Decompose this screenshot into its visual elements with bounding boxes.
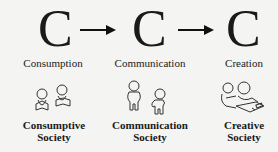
society-line: Creative xyxy=(214,119,274,131)
people-talking-icon xyxy=(124,80,174,116)
right-arrow-icon xyxy=(178,25,214,35)
people-reading-icon xyxy=(30,82,80,114)
society-label: Consumptive Society xyxy=(18,119,90,143)
society-line: Society xyxy=(214,131,274,143)
letter-c: C xyxy=(226,3,261,55)
stage-label: Consumption xyxy=(18,57,88,69)
letter-c: C xyxy=(38,3,73,55)
society-line: Society xyxy=(18,131,90,143)
society-line: Consumptive xyxy=(18,119,90,131)
society-line: Society xyxy=(104,131,196,143)
stage-label: Creation xyxy=(214,57,274,69)
right-arrow-icon xyxy=(80,25,116,35)
letter-c: C xyxy=(132,3,167,55)
stage-label: Communication xyxy=(108,57,192,69)
people-making-icon xyxy=(218,80,270,114)
society-line: Communication xyxy=(104,119,196,131)
society-label: Communication Society xyxy=(104,119,196,143)
society-label: Creative Society xyxy=(214,119,274,143)
